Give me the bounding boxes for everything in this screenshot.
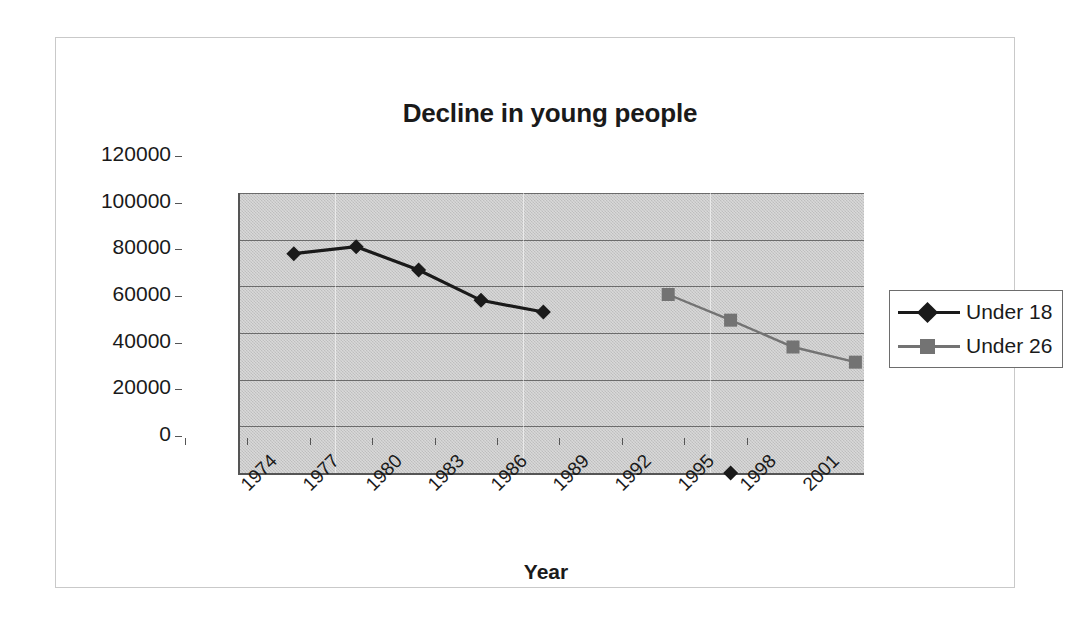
data-point-marker [724,314,737,327]
data-point-marker [662,288,675,301]
y-axis-tick-mark [175,389,182,390]
y-axis-tick-label: 60000 [113,282,171,306]
plot-area [238,193,864,475]
y-axis-tick-mark [175,436,182,437]
data-point-marker [286,246,301,261]
x-axis-title: Year [386,560,706,584]
legend-item: Under 18 [898,297,1052,327]
data-point-marker [411,263,426,278]
y-axis-tick-mark [175,203,182,204]
x-axis-tick-mark [497,438,498,445]
series-line [294,247,544,312]
x-axis-tick-mark [747,438,748,445]
legend-label: Under 18 [966,300,1052,324]
y-axis-tick-label: 100000 [101,189,171,213]
x-axis-tick-mark [559,438,560,445]
chart-title: Decline in young people [238,98,862,129]
data-point-marker [536,305,551,320]
legend-label: Under 26 [966,334,1052,358]
legend-item: Under 26 [898,331,1052,361]
chart-legend: Under 18Under 26 [889,290,1063,368]
x-axis-tick-mark [310,438,311,445]
x-axis-tick-mark [185,438,186,445]
square-marker-icon [920,339,935,354]
legend-swatch [898,302,960,322]
y-axis-tick-mark [175,296,182,297]
data-point-marker [849,356,862,369]
chart-screenshot: Decline in young people 0200004000060000… [0,0,1071,625]
y-axis-tick-mark [175,156,182,157]
y-axis-tick-label: 0 [159,422,171,446]
y-axis-tick-label: 120000 [101,142,171,166]
x-axis-tick-mark [684,438,685,445]
series-line [668,295,855,363]
diamond-marker-icon [917,302,938,323]
data-point-marker [787,341,800,354]
legend-swatch [898,336,960,356]
x-axis-tick-mark [622,438,623,445]
y-axis-tick-mark [175,249,182,250]
data-point-marker [349,239,364,254]
y-axis-tick-label: 80000 [113,235,171,259]
y-axis-tick-label: 40000 [113,329,171,353]
x-axis-tick-mark [372,438,373,445]
data-point-marker [474,293,489,308]
x-axis-tick-mark [435,438,436,445]
series-layer [240,193,864,473]
chart-frame: Decline in young people 0200004000060000… [55,37,1015,588]
y-axis-tick-mark [175,343,182,344]
x-axis-tick-mark [247,438,248,445]
y-axis-tick-label: 20000 [113,375,171,399]
